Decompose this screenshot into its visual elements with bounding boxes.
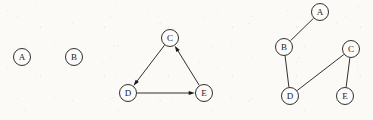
node-label: C xyxy=(167,33,173,43)
node-directed-cycle-e: E xyxy=(196,85,213,102)
node-label: C xyxy=(348,44,354,54)
nodes-layer: ABCDEABCDE xyxy=(14,4,360,105)
node-label: D xyxy=(287,91,294,101)
node-undirected-tree-d: D xyxy=(282,88,299,105)
node-undirected-tree-b: B xyxy=(276,39,293,56)
node-label: B xyxy=(71,52,77,62)
edge-e-c xyxy=(177,50,199,86)
node-directed-cycle-c: C xyxy=(162,30,179,47)
edge-c-e xyxy=(346,58,350,87)
edge-d-c xyxy=(297,55,344,91)
node-label: A xyxy=(317,7,324,17)
node-undirected-tree-a: A xyxy=(312,4,329,21)
arrowhead-e-c xyxy=(175,46,180,52)
node-directed-cycle-d: D xyxy=(120,85,137,102)
arrowhead-d-e xyxy=(189,91,195,95)
node-undirected-tree-e: E xyxy=(337,88,354,105)
edge-b-d xyxy=(285,56,289,87)
node-label: A xyxy=(19,52,26,62)
node-isolated-nodes-b: B xyxy=(66,49,83,66)
graph-figure-svg: ABCDEABCDE xyxy=(0,0,373,120)
node-isolated-nodes-a: A xyxy=(14,49,31,66)
figure-canvas: ABCDEABCDE xyxy=(0,0,373,120)
edge-a-b xyxy=(291,18,314,40)
node-undirected-tree-c: C xyxy=(343,41,360,58)
node-label: E xyxy=(342,91,348,101)
node-label: E xyxy=(201,88,207,98)
edge-c-d xyxy=(136,45,164,82)
node-label: B xyxy=(281,42,287,52)
node-label: D xyxy=(125,88,132,98)
edges-layer xyxy=(134,18,350,95)
